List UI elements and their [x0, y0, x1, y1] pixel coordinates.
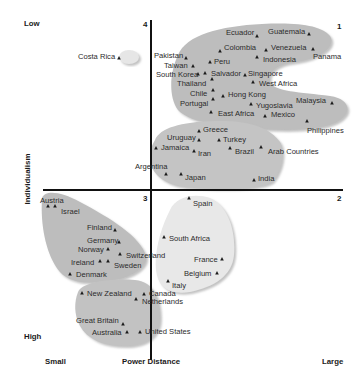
country-label: West Africa — [259, 80, 297, 88]
country-label: Japan — [185, 174, 206, 182]
quadrant-4-label: 4 — [143, 20, 147, 29]
country-label: Iran — [198, 150, 211, 158]
x-axis-right-label: Large — [322, 358, 343, 366]
country-label: Ecuador — [226, 29, 254, 37]
country-label: Finland — [87, 224, 112, 232]
country-label: Peru — [214, 58, 230, 66]
country-label: Philippines — [307, 127, 344, 135]
country-label: Thailand — [177, 80, 206, 88]
country-label: Brazil — [235, 148, 254, 156]
country-label: Switzerland — [126, 252, 165, 260]
x-axis-left-label: Small — [45, 358, 66, 366]
country-label: Costa Rica — [78, 53, 115, 61]
country-label: Australia — [92, 329, 122, 337]
country-label: Pakistan — [154, 52, 183, 60]
country-label: Sweden — [114, 262, 141, 270]
country-label: New Zealand — [87, 290, 132, 298]
country-label: Arab Countries — [268, 148, 319, 156]
cluster-costa-rica — [119, 50, 139, 64]
country-label: Guatemala — [268, 28, 305, 36]
country-label: France — [194, 256, 218, 264]
country-label: Germany — [87, 237, 118, 245]
country-label: Argentina — [135, 163, 168, 171]
country-label: South Korea — [156, 71, 198, 79]
country-label: United States — [145, 328, 191, 336]
country-label: Colombia — [224, 44, 256, 52]
y-axis-top-label: Low — [24, 20, 40, 28]
country-label: Ireland — [71, 259, 94, 267]
y-axis-title: Individualism — [23, 155, 32, 205]
country-label: Indonesia — [263, 56, 296, 64]
country-label: Singapore — [248, 70, 283, 78]
country-label: Austria — [40, 197, 64, 205]
country-label: Malaysia — [296, 97, 326, 105]
country-label: Salvador — [211, 70, 241, 78]
country-label: Uruguay — [167, 134, 196, 142]
country-label: South Africa — [169, 235, 210, 243]
country-label: Belgium — [184, 270, 211, 278]
country-label: Netherlands — [142, 298, 183, 306]
country-label: Venezuela — [271, 44, 306, 52]
country-label: Great Britain — [76, 317, 119, 325]
country-label: Portugal — [180, 100, 208, 108]
country-label: Turkey — [223, 136, 246, 144]
quadrant-2-label: 2 — [337, 194, 341, 203]
country-label: Greece — [203, 126, 228, 134]
country-label: Spain — [193, 200, 212, 208]
country-label: Jamaica — [161, 144, 189, 152]
country-label: Chile — [190, 90, 207, 98]
quadrant-3-label: 3 — [143, 194, 147, 203]
country-label: Norway — [78, 246, 104, 254]
country-label: Hong Kong — [228, 91, 266, 99]
quadrant-1-label: 1 — [337, 22, 341, 31]
country-label: Taiwan — [164, 62, 188, 70]
country-label: Israel — [61, 208, 80, 216]
country-label: India — [258, 175, 274, 183]
country-label: Panama — [313, 53, 341, 61]
x-axis-title: Power Distance — [122, 358, 180, 366]
country-label: Yugoslavia — [256, 102, 293, 110]
cluster-latin-europe — [156, 196, 235, 293]
country-label: East Africa — [218, 110, 254, 118]
y-axis-bottom-label: High — [24, 333, 41, 341]
country-label: Mexico — [271, 111, 295, 119]
country-label: Denmark — [76, 271, 107, 279]
